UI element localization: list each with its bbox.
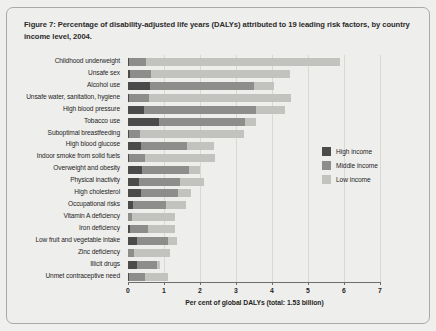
bar-segment-middle-income[interactable] bbox=[150, 82, 254, 90]
bar-row[interactable] bbox=[128, 142, 214, 150]
legend-item-middle[interactable]: Middle income bbox=[322, 160, 378, 171]
bar-segment-middle-income[interactable] bbox=[144, 106, 256, 114]
bar-segment-low-income[interactable] bbox=[245, 118, 256, 126]
legend-swatch-high bbox=[322, 147, 331, 156]
bar-segment-low-income[interactable] bbox=[254, 82, 274, 90]
bar-row[interactable] bbox=[128, 118, 256, 126]
bar-row[interactable] bbox=[128, 237, 177, 245]
x-tick-mark bbox=[380, 282, 381, 285]
bar-segment-middle-income[interactable] bbox=[137, 237, 168, 245]
bar-row[interactable] bbox=[128, 178, 204, 186]
bar-segment-low-income[interactable] bbox=[180, 178, 203, 186]
legend-label: Low income bbox=[336, 176, 371, 183]
category-label: High blood pressure bbox=[0, 105, 120, 112]
bar-row[interactable] bbox=[128, 82, 274, 90]
bar-segment-middle-income[interactable] bbox=[141, 189, 179, 197]
chart-legend: High incomeMiddle incomeLow income bbox=[322, 146, 378, 188]
x-tick-label: 0 bbox=[121, 287, 135, 294]
bar-segment-high-income[interactable] bbox=[128, 118, 159, 126]
bar-row[interactable] bbox=[128, 201, 186, 209]
category-label: Iron deficiency bbox=[0, 224, 120, 231]
bar-row[interactable] bbox=[128, 58, 340, 66]
bar-row[interactable] bbox=[128, 261, 160, 269]
bar-segment-low-income[interactable] bbox=[132, 213, 175, 221]
figure-title: Figure 7: Percentage of disability-adjus… bbox=[24, 19, 416, 42]
gridline bbox=[308, 55, 309, 282]
bar-segment-low-income[interactable] bbox=[189, 166, 200, 174]
bar-segment-low-income[interactable] bbox=[187, 142, 214, 150]
legend-item-low[interactable]: Low income bbox=[322, 174, 378, 185]
bar-segment-low-income[interactable] bbox=[140, 130, 244, 138]
x-tick-mark bbox=[236, 282, 237, 285]
bar-segment-high-income[interactable] bbox=[128, 237, 137, 245]
bar-segment-middle-income[interactable] bbox=[142, 166, 189, 174]
category-label: Unsafe water, sanitation, hygiene bbox=[0, 93, 120, 100]
bar-segment-high-income[interactable] bbox=[128, 178, 139, 186]
x-tick-mark bbox=[308, 282, 309, 285]
bar-row[interactable] bbox=[128, 106, 285, 114]
bar-segment-high-income[interactable] bbox=[128, 106, 144, 114]
bar-segment-middle-income[interactable] bbox=[141, 142, 188, 150]
bar-segment-low-income[interactable] bbox=[168, 237, 177, 245]
bar-segment-low-income[interactable] bbox=[145, 154, 215, 162]
x-tick-label: 4 bbox=[265, 287, 279, 294]
bar-row[interactable] bbox=[128, 213, 175, 221]
bar-segment-low-income[interactable] bbox=[149, 94, 291, 102]
bar-segment-middle-income[interactable] bbox=[129, 94, 149, 102]
category-label: Zinc deficiency bbox=[0, 248, 120, 255]
bar-segment-low-income[interactable] bbox=[157, 261, 161, 269]
bar-segment-middle-income[interactable] bbox=[133, 201, 165, 209]
bar-segment-high-income[interactable] bbox=[128, 189, 141, 197]
bar-segment-middle-income[interactable] bbox=[159, 118, 245, 126]
category-label: High cholesterol bbox=[0, 188, 120, 195]
category-label: Suboptimal breastfeeding bbox=[0, 129, 120, 136]
bar-segment-low-income[interactable] bbox=[178, 189, 191, 197]
legend-item-high[interactable]: High income bbox=[322, 146, 378, 157]
bar-row[interactable] bbox=[128, 166, 200, 174]
bar-segment-high-income[interactable] bbox=[128, 142, 141, 150]
bar-segment-low-income[interactable] bbox=[146, 58, 340, 66]
bar-segment-high-income[interactable] bbox=[128, 166, 142, 174]
x-tick-label: 6 bbox=[337, 287, 351, 294]
bar-segment-middle-income[interactable] bbox=[129, 130, 140, 138]
bar-row[interactable] bbox=[128, 225, 175, 233]
x-tick-mark bbox=[272, 282, 273, 285]
bar-row[interactable] bbox=[128, 130, 244, 138]
bar-segment-middle-income[interactable] bbox=[129, 58, 146, 66]
category-label: Alcohol use bbox=[0, 81, 120, 88]
category-label: Unsafe sex bbox=[0, 69, 120, 76]
x-tick-label: 2 bbox=[193, 287, 207, 294]
category-label: Vitamin A deficiency bbox=[0, 212, 120, 219]
bar-segment-middle-income[interactable] bbox=[130, 225, 148, 233]
bar-segment-high-income[interactable] bbox=[128, 82, 150, 90]
x-axis-title: Per cent of global DALYs (total: 1.53 bi… bbox=[128, 299, 381, 306]
bar-segment-high-income[interactable] bbox=[128, 261, 137, 269]
bar-segment-middle-income[interactable] bbox=[137, 261, 157, 269]
category-label: Overweight and obesity bbox=[0, 164, 120, 171]
bar-segment-low-income[interactable] bbox=[134, 249, 170, 257]
category-label: Unmet contraceptive need bbox=[0, 272, 120, 279]
category-label: Tobacco use bbox=[0, 117, 120, 124]
x-tick-label: 5 bbox=[301, 287, 315, 294]
category-label: Occupational risks bbox=[0, 200, 120, 207]
category-label: Low fruit and vegetable intake bbox=[0, 236, 120, 243]
bar-row[interactable] bbox=[128, 189, 191, 197]
bar-segment-middle-income[interactable] bbox=[130, 70, 152, 78]
legend-label: Middle income bbox=[336, 162, 378, 169]
bar-segment-middle-income[interactable] bbox=[129, 154, 145, 162]
bar-segment-middle-income[interactable] bbox=[139, 178, 180, 186]
bar-segment-low-income[interactable] bbox=[166, 201, 186, 209]
x-tick-mark bbox=[344, 282, 345, 285]
x-tick-label: 3 bbox=[229, 287, 243, 294]
bar-segment-middle-income[interactable] bbox=[129, 273, 145, 281]
bar-segment-low-income[interactable] bbox=[145, 273, 168, 281]
bar-segment-low-income[interactable] bbox=[148, 225, 175, 233]
bar-row[interactable] bbox=[128, 94, 291, 102]
bar-segment-low-income[interactable] bbox=[256, 106, 285, 114]
bar-row[interactable] bbox=[128, 154, 215, 162]
bar-row[interactable] bbox=[128, 70, 290, 78]
bar-row[interactable] bbox=[128, 273, 168, 281]
bar-row[interactable] bbox=[128, 249, 170, 257]
category-label: Illicit drugs bbox=[0, 260, 120, 267]
bar-segment-low-income[interactable] bbox=[151, 70, 290, 78]
